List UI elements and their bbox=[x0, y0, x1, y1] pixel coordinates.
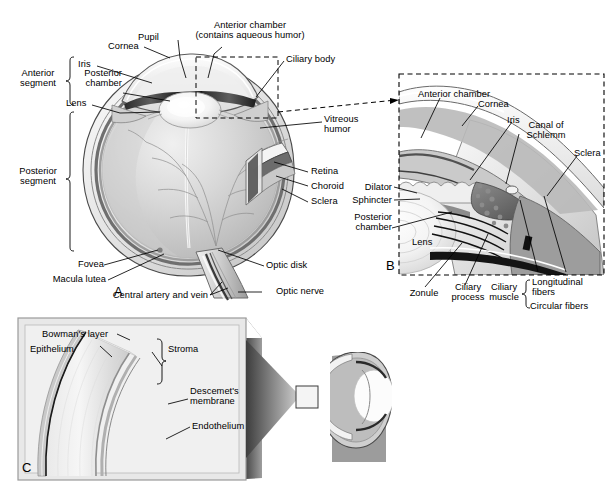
label-ciliary-muscle-b: Ciliarymuscle bbox=[480, 282, 528, 303]
label-lens-a: Lens bbox=[66, 98, 86, 108]
label-pupil-a: Pupil bbox=[138, 32, 159, 42]
label-epithelium-c: Epithelium bbox=[30, 344, 74, 354]
canal-of-schlemm-shape bbox=[506, 186, 518, 194]
label-bowmans-layer-c: Bowman's layer bbox=[42, 329, 108, 339]
label-stroma-c: Stroma bbox=[168, 344, 198, 354]
label-optic-nerve-a: Optic nerve bbox=[276, 286, 324, 296]
label-circular-fibers-b: Circular fibers bbox=[530, 301, 588, 311]
panel-letter-c: C bbox=[22, 460, 31, 475]
label-macula-lutea-a: Macula lutea bbox=[38, 274, 106, 284]
mini-eye-region-box bbox=[296, 386, 318, 408]
label-sphincter-b: Sphincter bbox=[332, 195, 392, 205]
panel-letter-b: B bbox=[386, 258, 395, 273]
label-anterior-chamber-b: Anterior chamber bbox=[418, 89, 490, 99]
magnifier-cone bbox=[246, 340, 300, 458]
label-canal-of-schlemm-b: Canal ofSchlemm bbox=[518, 120, 574, 141]
label-fovea-a: Fovea bbox=[52, 259, 104, 269]
label-sclera-b: Sclera bbox=[574, 148, 601, 158]
panel-letter-a: A bbox=[114, 284, 123, 299]
label-vitreous-humor-a: Vitreoushumor bbox=[324, 114, 358, 135]
bracket-label-posterior-segment: Posteriorsegment bbox=[8, 166, 68, 187]
label-longitudinal-fibers-b: Longitudinalfibers bbox=[532, 277, 583, 298]
label-central-artery-and-vein-a: Central artery and vein bbox=[78, 290, 208, 300]
label-lens-b: Lens bbox=[412, 237, 432, 247]
bracket-label-anterior-segment: Anteriorsegment bbox=[8, 68, 68, 89]
label-cornea-b: Cornea bbox=[478, 99, 509, 109]
label-retina-a: Retina bbox=[311, 166, 338, 176]
label-optic-disk-a: Optic disk bbox=[266, 260, 307, 270]
label-ciliary-body-a: Ciliary body bbox=[286, 54, 335, 64]
eye-anatomy-figure: Anterior chamber(contains aqueous humor)… bbox=[0, 0, 612, 492]
label-dilator-b: Dilator bbox=[336, 182, 392, 192]
label-posterior-chamber-b: Posteriorchamber bbox=[332, 212, 392, 233]
panel-a-artwork bbox=[83, 54, 399, 300]
label-anterior-chamber-a: Anterior chamber(contains aqueous humor) bbox=[188, 20, 312, 41]
label-descemets-membrane-c: Descemet'smembrane bbox=[190, 386, 239, 407]
label-cornea-a: Cornea bbox=[108, 41, 139, 51]
label-endothelium-c: Endothelium bbox=[192, 421, 244, 431]
mini-eye bbox=[318, 352, 394, 462]
